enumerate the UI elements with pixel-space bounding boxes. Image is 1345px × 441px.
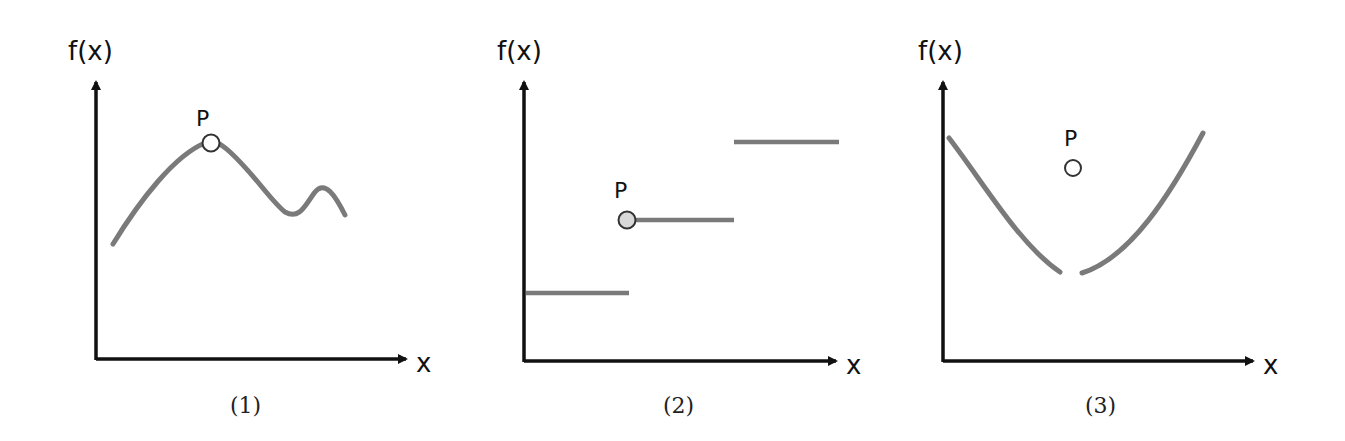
x-axis-label: x [1263,350,1278,380]
panel-caption: (2) [663,393,694,418]
curve-right-branch [1082,133,1203,273]
panel-caption: (3) [1085,393,1116,418]
panel-caption: (1) [230,393,261,418]
x-axis-label: x [846,350,861,380]
point-label: P [614,178,627,203]
panel-2: f(x) x P (2) [497,36,861,418]
y-axis-label: f(x) [68,36,113,66]
panel-3: f(x) x P (3) [918,36,1278,418]
y-axis-label: f(x) [918,36,963,66]
point-p-marker [1065,160,1081,176]
panel-1: f(x) x P (1) [68,36,431,418]
point-label: P [1064,126,1077,151]
point-p-marker [203,135,220,152]
point-p-marker [619,212,636,229]
x-axis-label: x [416,348,431,378]
figure: f(x) x P (1) f(x) x P (2) f(x) x P (3) [0,0,1345,441]
curve [113,142,345,244]
y-axis-label: f(x) [497,36,542,66]
point-label: P [196,106,209,131]
curve-left-branch [949,138,1060,272]
